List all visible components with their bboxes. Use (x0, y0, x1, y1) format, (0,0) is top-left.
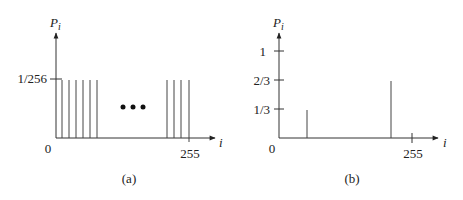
origin-label-b: 0 (269, 141, 276, 156)
bars-left-a (62, 80, 97, 138)
y-tick-label-1-256: 1/256 (17, 71, 47, 86)
y-axis-label-b: Pi (272, 15, 284, 32)
figure: 1/256 0 255 i Pi (a) (0, 0, 463, 200)
origin-label-a: 0 (45, 141, 52, 156)
x-tick-label-255-b: 255 (403, 146, 423, 161)
ellipsis-dots (121, 105, 146, 110)
x-axis-label-a: i (219, 135, 223, 150)
y-axis-label-a: Pi (49, 15, 61, 32)
y-tick-label-1-3: 1/3 (253, 102, 270, 117)
chart-a: 1/256 0 255 i Pi (a) (17, 15, 223, 186)
panel-label-a: (a) (122, 171, 136, 186)
panel-label-b: (b) (344, 171, 359, 186)
x-axis-label-b: i (443, 135, 447, 150)
x-tick-label-255-a: 255 (180, 146, 200, 161)
bars-right-a (167, 80, 189, 142)
chart-b: 1 2/3 1/3 0 255 i Pi (b) (253, 15, 447, 186)
y-tick-label-1: 1 (260, 44, 267, 59)
y-tick-label-2-3: 2/3 (253, 73, 270, 88)
